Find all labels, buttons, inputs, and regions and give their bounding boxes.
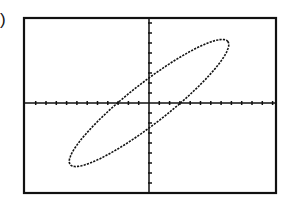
graph — [0, 0, 282, 198]
graph-frame — [24, 18, 276, 193]
